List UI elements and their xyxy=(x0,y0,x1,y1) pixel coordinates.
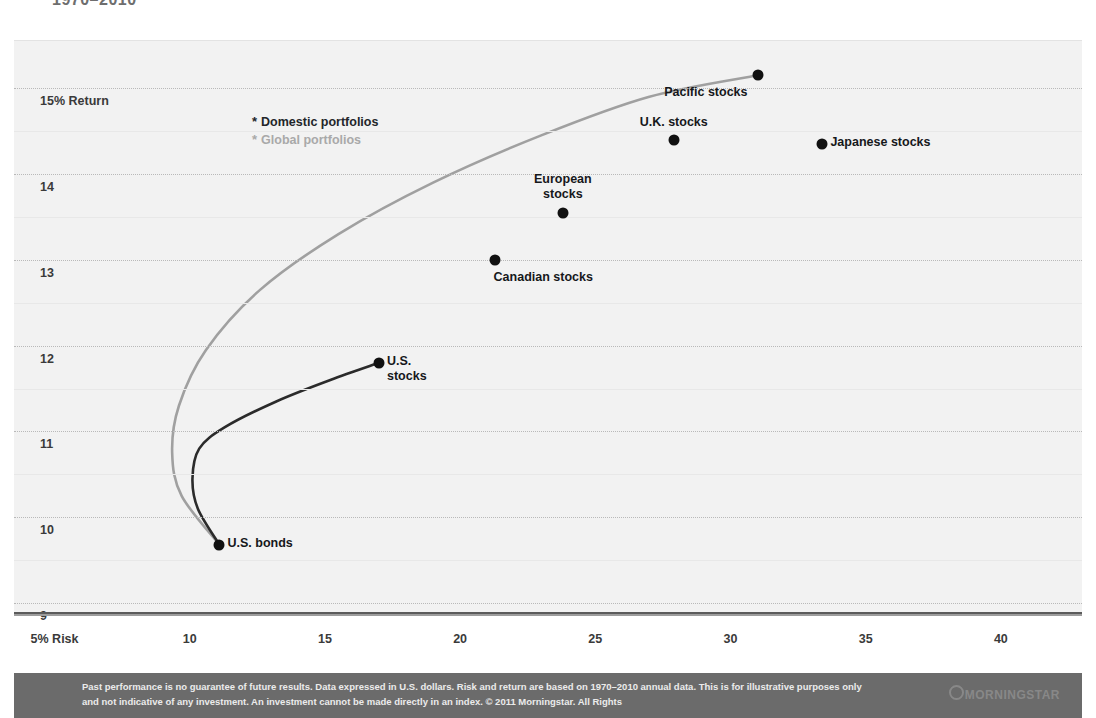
gridline-y-9 xyxy=(14,603,1082,604)
footer-disclaimer-text: Past performance is no guarantee of futu… xyxy=(82,680,872,709)
y-tick-label-11: 11 xyxy=(40,437,53,451)
x-tick-label-10: 10 xyxy=(183,632,197,646)
label-u-k-stocks: U.K. stocks xyxy=(640,115,708,131)
label-u-s-bonds: U.S. bonds xyxy=(227,536,292,552)
chart-title: 1970–2010 xyxy=(52,0,137,9)
y-tick-label-15: 15% Return xyxy=(40,94,109,108)
marker-u-k-stocks xyxy=(668,134,679,145)
x-tick-label-35: 35 xyxy=(859,632,873,646)
gridline-minor xyxy=(14,131,1082,132)
footer-disclaimer-bar: Past performance is no guarantee of futu… xyxy=(14,673,1082,718)
marker-pacific-stocks xyxy=(752,70,763,81)
y-tick-label-12: 12 xyxy=(40,352,54,366)
x-axis: 5% Risk10152025303540 xyxy=(14,615,1082,660)
marker-u-s-stocks xyxy=(374,357,385,368)
marker-canadian-stocks xyxy=(490,254,501,265)
morningstar-mark-icon xyxy=(949,685,964,700)
x-tick-label-15: 15 xyxy=(318,632,332,646)
gridline-y-11 xyxy=(14,431,1082,432)
gridline-y-13 xyxy=(14,260,1082,261)
legend-label-global: Global portfolios xyxy=(261,133,361,147)
gridline-minor xyxy=(14,474,1082,475)
morningstar-wordmark: MORNINGSTAR xyxy=(965,688,1060,702)
gridline-minor xyxy=(14,560,1082,561)
x-tick-label-25: 25 xyxy=(588,632,602,646)
x-tick-label-20: 20 xyxy=(453,632,467,646)
plot-area: 15% Return14131211109 Pacific stocksU.K.… xyxy=(14,40,1082,616)
x-tick-label-30: 30 xyxy=(724,632,738,646)
legend-label-domestic: Domestic portfolios xyxy=(261,115,378,129)
gridline-minor xyxy=(14,217,1082,218)
gridline-y-10 xyxy=(14,517,1082,518)
legend-item-domestic-portfolios: * Domestic portfolios xyxy=(252,115,378,129)
legend-bullet-icon: * xyxy=(252,115,257,128)
gridline-y-15 xyxy=(14,88,1082,89)
label-u-s-stocks: U.S. stocks xyxy=(387,354,427,385)
chart-page: 1970–2010 15% Return14131211109 Pacific … xyxy=(0,0,1096,718)
x-tick-label-40: 40 xyxy=(994,632,1008,646)
legend: * Domestic portfolios * Global portfolio… xyxy=(252,115,378,151)
y-tick-label-13: 13 xyxy=(40,266,54,280)
y-tick-label-14: 14 xyxy=(40,180,54,194)
marker-u-s-bonds xyxy=(214,539,225,550)
y-tick-label-10: 10 xyxy=(40,523,54,537)
label-european-stocks: European stocks xyxy=(534,172,592,203)
morningstar-logo: MORNINGSTAR xyxy=(949,685,1060,702)
gridline-y-12 xyxy=(14,346,1082,347)
x-tick-label-5: 5% Risk xyxy=(31,632,79,646)
efficient-frontier-curves xyxy=(14,41,1082,616)
label-canadian-stocks: Canadian stocks xyxy=(494,270,593,286)
legend-bullet-icon: * xyxy=(252,133,257,146)
label-japanese-stocks: Japanese stocks xyxy=(830,135,930,151)
label-pacific-stocks: Pacific stocks xyxy=(664,85,747,101)
gridline-minor xyxy=(14,389,1082,390)
marker-european-stocks xyxy=(557,207,568,218)
legend-item-global-portfolios: * Global portfolios xyxy=(252,133,378,147)
marker-japanese-stocks xyxy=(817,138,828,149)
gridline-minor xyxy=(14,303,1082,304)
